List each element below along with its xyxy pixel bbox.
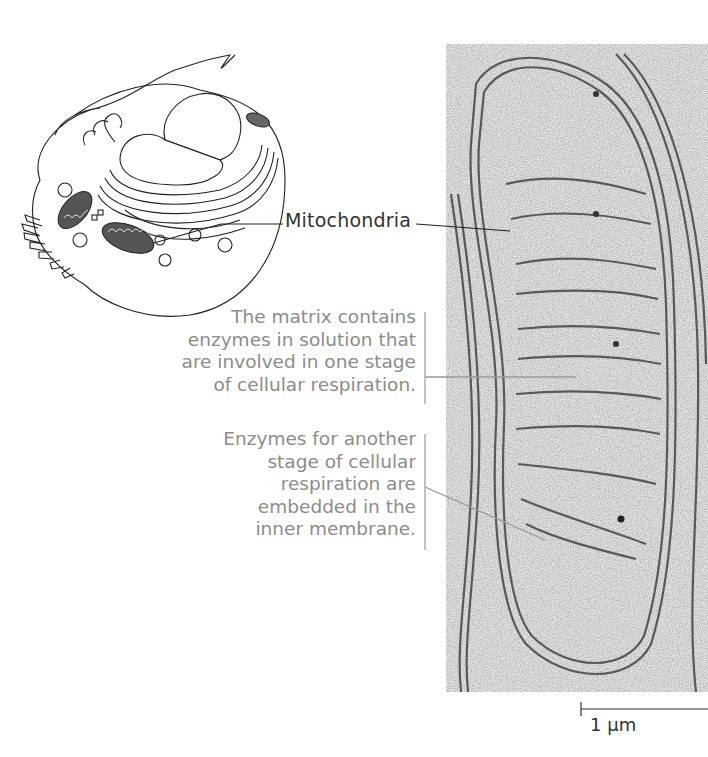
electron-micrograph [446, 44, 708, 692]
callout-line: embedded in the [180, 496, 416, 519]
membrane-callout: Enzymes for another stage of cellular re… [180, 428, 416, 541]
matrix-callout: The matrix contains enzymes in solution … [180, 306, 416, 396]
cell-diagram [0, 30, 300, 330]
callout-line: The matrix contains [180, 306, 416, 329]
callout-line: respiration are [180, 473, 416, 496]
callout-line: stage of cellular [180, 451, 416, 474]
callout-line: of cellular respiration. [180, 374, 416, 397]
callout-line: are involved in one stage [180, 351, 416, 374]
scale-bar-label: 1 µm [590, 714, 636, 735]
callout-line: Enzymes for another [180, 428, 416, 451]
mitochondria-label: Mitochondria [285, 209, 411, 231]
callout-line: inner membrane. [180, 518, 416, 541]
callout-line: enzymes in solution that [180, 329, 416, 352]
